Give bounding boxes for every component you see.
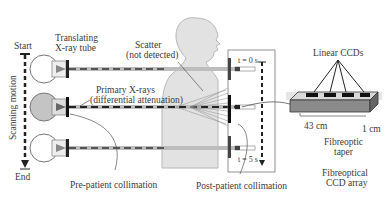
xray-tube-top — [30, 55, 69, 83]
ccd-array-label-line2: CCD array — [326, 178, 367, 188]
primary-xrays-label-line2: (differential attenuation) — [90, 95, 183, 105]
linear-ccds-label: Linear CCDs — [313, 48, 363, 58]
xray-beam-bottom — [69, 146, 235, 150]
pre-patient-collimation-label: Pre-patient collimation — [70, 180, 157, 190]
xray-beam-top — [69, 67, 235, 71]
primary-xrays-label-line1: Primary X-rays — [96, 85, 155, 95]
tube-label-line2: X-ray tube — [55, 43, 96, 53]
scatter-label-line2: (not detected) — [126, 50, 179, 60]
ccd-array-label-line1: Fibreoptical — [322, 168, 368, 178]
post-patient-collimation-label: Post-patient collimation — [196, 181, 287, 191]
dim-43cm-label: 43 cm — [304, 121, 327, 131]
fibreoptic-ccd-array — [286, 92, 382, 116]
leader-lines — [70, 62, 247, 174]
dim-1cm-label: 1 cm — [362, 124, 381, 134]
xray-tube-middle-active — [30, 93, 69, 121]
scanning-slot-radiography-diagram: Start End Scanning motion Translating X-… — [0, 0, 386, 202]
tube-label-line1: Translating — [55, 33, 98, 43]
start-label: Start — [14, 41, 32, 51]
linear-ccd-arrows — [314, 60, 364, 92]
post-patient-collimation-box — [228, 50, 275, 172]
t5-label: t = 5 s — [238, 155, 258, 165]
xray-beam-middle — [69, 105, 240, 109]
scatter-label-line1: Scatter — [135, 40, 161, 50]
t0-label: t = 0 s — [238, 56, 258, 66]
xray-tube-bottom — [30, 134, 69, 162]
scanning-motion-label: Scanning motion — [8, 75, 18, 140]
scanning-motion-arrow — [20, 54, 30, 169]
patient-silhouette — [162, 18, 220, 168]
end-label: End — [15, 172, 30, 182]
fibreoptic-taper-label-line1: Fibreoptic — [324, 137, 363, 147]
fibreoptic-taper-label-line2: taper — [334, 147, 353, 157]
